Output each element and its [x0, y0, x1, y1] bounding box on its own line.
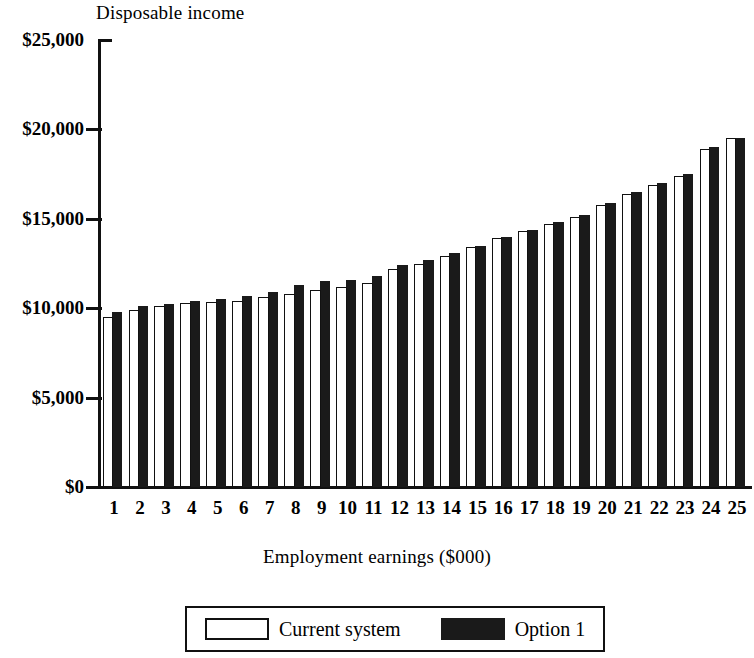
legend-swatch-hollow-square-icon — [205, 618, 269, 640]
bar-option-1 — [423, 260, 433, 487]
bar-current-system — [466, 247, 476, 487]
bar-current-system — [310, 290, 320, 487]
y-axis-tick-label: $15,000 — [0, 208, 84, 230]
x-axis-tick-label: 17 — [516, 497, 542, 519]
bar-option-1 — [268, 292, 278, 487]
bar-current-system — [206, 302, 216, 487]
x-axis-tick-label: 3 — [153, 497, 179, 519]
bar-current-system — [726, 138, 736, 487]
bar-group — [568, 40, 594, 487]
bar-current-system — [700, 149, 710, 487]
x-axis-tick-label: 7 — [257, 497, 283, 519]
x-axis-tick-label: 23 — [672, 497, 698, 519]
bar-group — [698, 40, 724, 487]
bar-group — [283, 40, 309, 487]
y-axis-tick — [86, 307, 102, 310]
x-axis-tick-label: 22 — [646, 497, 672, 519]
bar-option-1 — [346, 280, 356, 487]
bar-option-1 — [605, 203, 615, 487]
legend-entry-current-system: Current system — [205, 618, 401, 641]
legend-swatch-filled-square-icon — [441, 618, 505, 640]
bar-current-system — [362, 283, 372, 487]
bar-current-system — [388, 269, 398, 487]
bar-group — [413, 40, 439, 487]
x-axis-tick-label: 6 — [231, 497, 257, 519]
legend-entry-option-1: Option 1 — [441, 618, 586, 641]
y-axis-tick-label: $0 — [0, 476, 84, 498]
y-axis-tick — [86, 486, 102, 489]
bar-group — [101, 40, 127, 487]
bar-option-1 — [631, 192, 641, 487]
bar-group — [594, 40, 620, 487]
bar-option-1 — [242, 296, 252, 487]
bar-current-system — [518, 231, 528, 487]
x-axis-title: Employment earnings ($000) — [0, 546, 754, 568]
bar-option-1 — [320, 281, 330, 487]
bar-group — [724, 40, 750, 487]
bar-option-1 — [501, 237, 511, 487]
bar-current-system — [129, 310, 139, 487]
bar-group — [387, 40, 413, 487]
x-axis-tick-label: 16 — [490, 497, 516, 519]
x-axis-tick-label: 8 — [283, 497, 309, 519]
bar-current-system — [674, 176, 684, 487]
bar-option-1 — [138, 306, 148, 487]
bar-current-system — [492, 238, 502, 487]
chart-legend: Current system Option 1 — [185, 606, 605, 652]
bar-group — [205, 40, 231, 487]
bar-option-1 — [112, 312, 122, 487]
bar-group — [646, 40, 672, 487]
bar-current-system — [103, 317, 113, 487]
x-axis-tick-label: 1 — [101, 497, 127, 519]
bar-group — [490, 40, 516, 487]
y-axis-tick — [86, 218, 102, 221]
bar-series-area — [101, 40, 750, 487]
bar-current-system — [414, 264, 424, 488]
bar-group — [672, 40, 698, 487]
bar-current-system — [596, 205, 606, 488]
bar-group — [620, 40, 646, 487]
bar-option-1 — [164, 304, 174, 487]
bar-group — [361, 40, 387, 487]
x-axis-tick-label: 20 — [594, 497, 620, 519]
y-axis-tick-label: $10,000 — [0, 297, 84, 319]
bar-current-system — [570, 217, 580, 487]
y-axis-tick-label: $20,000 — [0, 118, 84, 140]
bar-current-system — [622, 194, 632, 487]
x-axis-tick-label: 18 — [542, 497, 568, 519]
x-axis-tick-labels: 1234567891011121314151617181920212223242… — [101, 497, 750, 527]
x-axis-tick-label: 2 — [127, 497, 153, 519]
y-axis-tick-label: $5,000 — [0, 387, 84, 409]
bar-option-1 — [579, 215, 589, 487]
x-axis-tick-label: 4 — [179, 497, 205, 519]
bar-option-1 — [657, 183, 667, 487]
bar-current-system — [544, 224, 554, 487]
x-axis-tick-label: 12 — [387, 497, 413, 519]
x-axis-tick-label: 21 — [620, 497, 646, 519]
chart-figure: Disposable income $0$5,000$10,000$15,000… — [0, 0, 754, 658]
x-axis-tick-label: 14 — [438, 497, 464, 519]
bar-group — [257, 40, 283, 487]
bar-group — [464, 40, 490, 487]
bar-group — [127, 40, 153, 487]
bar-group — [231, 40, 257, 487]
bar-group — [335, 40, 361, 487]
bar-current-system — [180, 303, 190, 487]
bar-current-system — [258, 297, 268, 487]
bar-group — [516, 40, 542, 487]
bar-option-1 — [709, 147, 719, 487]
bar-group — [438, 40, 464, 487]
chart-title: Disposable income — [96, 2, 245, 24]
x-axis-tick-label: 9 — [309, 497, 335, 519]
x-axis-tick-label: 11 — [361, 497, 387, 519]
bar-option-1 — [527, 230, 537, 487]
bar-option-1 — [216, 299, 226, 487]
bar-option-1 — [683, 174, 693, 487]
bar-option-1 — [190, 301, 200, 487]
bar-option-1 — [372, 276, 382, 487]
y-axis-tick — [86, 397, 102, 400]
bar-group — [309, 40, 335, 487]
bar-option-1 — [475, 246, 485, 487]
x-axis-tick-label: 13 — [413, 497, 439, 519]
bar-current-system — [284, 294, 294, 487]
